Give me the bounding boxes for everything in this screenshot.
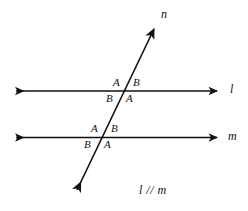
angle-label-m-upper-right: B bbox=[111, 123, 118, 134]
line-label-l: l bbox=[230, 83, 233, 95]
line-label-m: m bbox=[228, 130, 237, 142]
angle-label-l-upper-left: A bbox=[113, 77, 120, 88]
geometry-canvas bbox=[0, 0, 248, 211]
parallel-caption: l // m bbox=[139, 184, 167, 196]
angle-label-l-lower-left: B bbox=[106, 93, 113, 104]
angle-label-m-upper-left: A bbox=[91, 123, 98, 134]
line-n-transversal bbox=[77, 29, 154, 190]
angle-label-m-lower-left: B bbox=[84, 139, 91, 150]
angle-label-m-lower-right: A bbox=[104, 139, 111, 150]
angle-label-l-lower-right: A bbox=[126, 93, 133, 104]
geometry-figure: A B B A A B B A l m n l // m bbox=[0, 0, 248, 211]
angle-label-l-upper-right: B bbox=[133, 77, 140, 88]
line-label-n: n bbox=[161, 8, 167, 20]
